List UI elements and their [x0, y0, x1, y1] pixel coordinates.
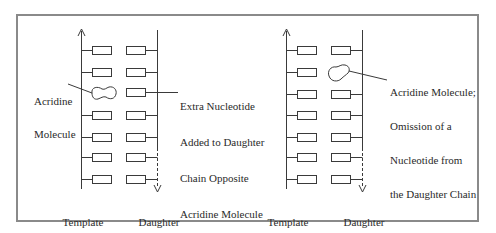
label-line: Daughter: [134, 217, 184, 228]
right-row-6: [287, 154, 363, 162]
left-daughter-arrow-icon: [154, 185, 161, 192]
left-row-5: [82, 134, 158, 142]
left-acridine-label: Acridine Molecule: [34, 74, 76, 151]
left-annotation-label: Extra Nucleotide Added to Daughter Chain…: [180, 76, 264, 232]
label-line: Added to Daughter: [180, 136, 264, 148]
label-line: Chain Opposite: [180, 172, 264, 184]
left-row-1: [82, 47, 158, 55]
label-line: Daughter: [339, 217, 389, 228]
right-row-3: [287, 91, 363, 99]
label-line: Template: [58, 217, 108, 228]
left-row-6: [82, 154, 158, 162]
left-acridine-molecule-icon: [92, 87, 116, 99]
right-daughter-label: Daughter Chain: [339, 195, 389, 233]
left-daughter-label: Daughter Chain: [134, 195, 184, 233]
left-row-4: [82, 112, 158, 120]
right-annotation-label: Acridine Molecule; Omission of a Nucleot…: [390, 64, 476, 211]
left-row-7: [82, 176, 158, 184]
right-panel: [283, 29, 387, 192]
label-line: Nucleotide from: [390, 154, 476, 166]
right-row-1: [287, 47, 363, 55]
label-line: Molecule: [34, 129, 76, 140]
right-row-7: [287, 176, 363, 184]
label-line: the Daughter Chain: [390, 188, 476, 200]
right-row-5: [287, 134, 363, 142]
label-line: Acridine: [34, 96, 76, 107]
label-line: Extra Nucleotide: [180, 100, 264, 112]
left-panel: [68, 29, 178, 192]
left-row-3-acridine: [92, 87, 158, 99]
label-line: Acridine Molecule;: [390, 86, 476, 98]
right-annotation-leader: [349, 71, 387, 80]
right-daughter-arrow-icon: [359, 185, 366, 192]
right-row-2-acridine: [287, 65, 350, 81]
label-line: Acridine Molecule: [180, 208, 264, 220]
left-template-label: Template Chain: [58, 195, 108, 233]
label-line: Omission of a: [390, 120, 476, 132]
right-row-4: [287, 112, 363, 120]
right-template-label: Template Chain: [263, 195, 313, 233]
left-row-2: [82, 69, 158, 77]
label-line: Template: [263, 217, 313, 228]
right-acridine-molecule-icon: [328, 65, 349, 81]
